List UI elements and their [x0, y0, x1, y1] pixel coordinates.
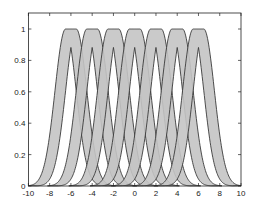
y-tick-label: 0.2 — [14, 151, 26, 160]
y-tick-label: 0.4 — [14, 119, 26, 128]
x-tick-label: 8 — [218, 189, 223, 198]
x-tick-label: -6 — [67, 189, 75, 198]
x-tick-label: -2 — [110, 189, 118, 198]
plot-area: -10-8-6-4-20246810 00.20.40.60.81 — [0, 0, 259, 206]
x-tick-label: 0 — [132, 189, 137, 198]
chart-figure: -10-8-6-4-20246810 00.20.40.60.81 — [0, 0, 259, 206]
y-tick-label: 0 — [21, 182, 26, 191]
x-tick-label: 2 — [154, 189, 159, 198]
fuzzy-membership-bands — [28, 29, 241, 186]
x-tick-label: 4 — [175, 189, 180, 198]
y-tick-label: 0.6 — [14, 88, 26, 97]
x-tick-label: -4 — [89, 189, 97, 198]
x-tick-label: -8 — [46, 189, 54, 198]
x-tick-label: 10 — [237, 189, 246, 198]
y-tick-label: 0.8 — [14, 56, 26, 65]
y-tick-label: 1 — [21, 25, 26, 34]
x-tick-label: 6 — [196, 189, 201, 198]
